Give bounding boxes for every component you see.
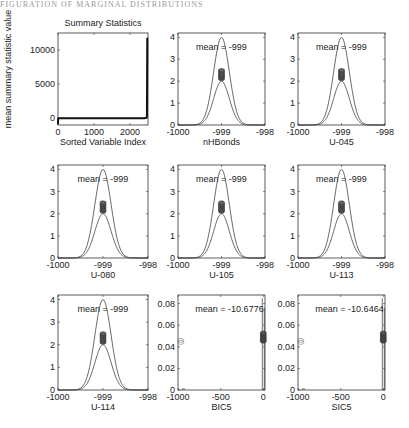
marker xyxy=(219,201,225,205)
y-tick-label: 2 xyxy=(50,340,55,350)
x-tick-label: -500 xyxy=(332,392,350,402)
mean-annotation: mean = -999 xyxy=(78,174,129,184)
x-tick-label: -998 xyxy=(139,392,157,402)
x-tick-label: -999 xyxy=(94,392,112,402)
density-curve-inner xyxy=(178,81,265,125)
y-tick-label: 0.08 xyxy=(277,299,295,309)
y-tick-label: 2 xyxy=(290,209,295,219)
mean-annotation: mean = -10.6464 xyxy=(315,304,383,314)
y-tick-label: 0 xyxy=(170,385,175,395)
subplot-title: Summary Statistics xyxy=(64,18,142,28)
subplot-u-045: -1000-999-99801234U-045mean = -999 xyxy=(286,32,394,147)
subplot-u-105: -1000-999-99801234U-105mean = -999 xyxy=(166,164,274,280)
mean-annotation: mean = -999 xyxy=(316,42,367,52)
y-tick-label: 4 xyxy=(50,164,55,174)
x-axis-label: nHBonds xyxy=(203,137,241,147)
x-tick-label: -999 xyxy=(94,260,112,270)
x-tick-label: -999 xyxy=(212,260,230,270)
x-axis-label: U-045 xyxy=(329,137,354,147)
subplot-sic5: -1000-500000.020.040.060.08SIC5mean = -1… xyxy=(277,295,386,412)
marker xyxy=(219,68,225,72)
marker xyxy=(380,331,386,335)
y-tick-label: 0 xyxy=(290,120,295,130)
x-tick-label: -999 xyxy=(332,127,350,137)
mean-annotation: mean = -999 xyxy=(196,174,247,184)
x-tick-label: -500 xyxy=(212,392,230,402)
mean-annotation: mean = -999 xyxy=(78,304,129,314)
subplot-u-114: -1000-999-99801234U-114mean = -999 xyxy=(46,295,157,412)
y-tick-label: 1 xyxy=(290,231,295,241)
axes-frame xyxy=(58,33,148,125)
y-tick-label: 2 xyxy=(170,209,175,219)
subplot-nhbonds: -1000-999-99801234nHBondsmean = -999 xyxy=(166,32,274,147)
mean-annotation: mean = -999 xyxy=(316,174,367,184)
mean-annotation: mean = -999 xyxy=(196,42,247,52)
y-tick-label: 0 xyxy=(50,385,55,395)
x-axis-label: Sorted Variable Index xyxy=(60,137,146,147)
y-tick-label: 10000 xyxy=(30,45,55,55)
y-tick-label: 0 xyxy=(50,113,55,123)
x-tick-label: -998 xyxy=(139,260,157,270)
y-tick-label: 3 xyxy=(290,54,295,64)
density-curve-inner xyxy=(298,81,385,125)
x-axis-label: U-080 xyxy=(91,270,116,280)
y-tick-label: 0 xyxy=(170,120,175,130)
sorted-means-line xyxy=(58,38,147,125)
density-curve-inner xyxy=(178,214,265,258)
y-tick-label: 1 xyxy=(170,98,175,108)
y-tick-label: 0 xyxy=(290,253,295,263)
x-tick-label: -999 xyxy=(332,260,350,270)
y-tick-label: 0.06 xyxy=(157,320,175,330)
y-tick-label: 0.04 xyxy=(157,342,175,352)
subplot-u-080: -1000-999-99801234U-080mean = -999 xyxy=(46,164,157,280)
y-tick-label: 3 xyxy=(290,187,295,197)
x-tick-label: 0 xyxy=(55,127,60,137)
y-tick-label: 0.02 xyxy=(277,363,295,373)
subplot-sorted-variable-index: 0100020000500010000Sorted Variable Index… xyxy=(3,10,148,147)
y-tick-label: 4 xyxy=(170,32,175,42)
density-curve-inner xyxy=(58,345,148,390)
y-tick-label: 1 xyxy=(50,362,55,372)
y-axis-label: mean summary statistic value xyxy=(3,10,13,129)
y-tick-label: 3 xyxy=(170,187,175,197)
marker xyxy=(339,68,345,72)
y-tick-label: 1 xyxy=(170,231,175,241)
y-tick-label: 1 xyxy=(290,98,295,108)
y-tick-label: 0.08 xyxy=(157,299,175,309)
x-axis-label: SIC5 xyxy=(331,402,351,412)
y-tick-label: 2 xyxy=(170,76,175,86)
density-curve-inner xyxy=(58,214,148,258)
x-axis-label: BIC5 xyxy=(211,402,231,412)
y-tick-label: 4 xyxy=(290,164,295,174)
x-axis-label: U-114 xyxy=(91,402,115,412)
y-tick-label: 0 xyxy=(290,385,295,395)
subplot-u-113: -1000-999-99801234U-113mean = -999 xyxy=(286,164,394,280)
y-tick-label: 2 xyxy=(50,209,55,219)
marker xyxy=(100,201,106,205)
y-tick-label: 4 xyxy=(50,295,55,305)
marker xyxy=(260,331,266,335)
subplot-bic5: -1000-500000.020.040.060.08BIC5mean = -1… xyxy=(157,295,266,412)
y-tick-label: 2 xyxy=(290,76,295,86)
y-tick-label: 3 xyxy=(170,54,175,64)
y-tick-label: 0 xyxy=(50,253,55,263)
x-tick-label: 2000 xyxy=(120,127,140,137)
marker xyxy=(100,332,106,336)
y-tick-label: 0 xyxy=(170,253,175,263)
y-tick-label: 0.02 xyxy=(157,363,175,373)
x-axis-label: U-113 xyxy=(330,270,354,280)
y-tick-label: 0.04 xyxy=(277,342,295,352)
x-tick-label: 0 xyxy=(261,392,266,402)
x-tick-label: -999 xyxy=(212,127,230,137)
y-tick-label: 1 xyxy=(50,231,55,241)
y-tick-label: 0.06 xyxy=(277,320,295,330)
figure: 0100020000500010000Sorted Variable Index… xyxy=(0,0,409,428)
x-tick-label: -998 xyxy=(256,260,274,270)
density-curve-inner xyxy=(298,214,385,258)
x-tick-label: 1000 xyxy=(84,127,104,137)
x-tick-label: 0 xyxy=(381,392,386,402)
y-tick-label: 5000 xyxy=(35,79,55,89)
x-tick-label: -998 xyxy=(376,127,394,137)
y-tick-label: 3 xyxy=(50,187,55,197)
x-tick-label: -998 xyxy=(256,127,274,137)
